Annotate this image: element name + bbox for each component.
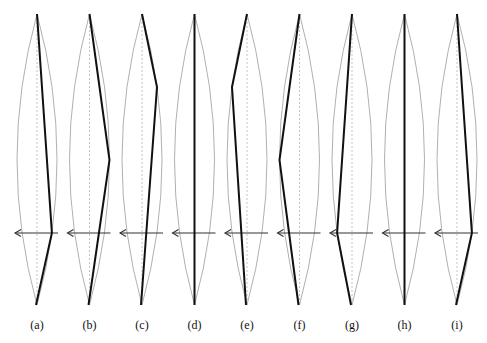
- lens-right-arc: [405, 14, 425, 305]
- panel-i: (i): [435, 14, 478, 332]
- lens-left-arc: [385, 14, 405, 305]
- bold-path-line: [141, 14, 157, 305]
- lens-left-arc: [437, 14, 457, 305]
- lens-left-arc: [70, 14, 90, 305]
- bold-path-line: [456, 14, 472, 305]
- panel-label: (d): [188, 318, 202, 332]
- panel-f: (f): [278, 14, 321, 332]
- lens-left-arc: [122, 14, 142, 305]
- panel-label: (b): [83, 318, 97, 332]
- lens-left-arc: [17, 14, 37, 305]
- panel-label: (f): [294, 318, 306, 332]
- lens-left-arc: [175, 14, 195, 305]
- bold-path-line: [232, 14, 247, 305]
- bold-path-line: [89, 14, 110, 305]
- lens-right-arc: [352, 14, 372, 305]
- panel-label: (c): [135, 318, 148, 332]
- panel-e: (e): [225, 14, 268, 332]
- panel-c: (c): [120, 14, 163, 332]
- lens-path-diagram: (a)(b)(c)(d)(e)(f)(g)(h)(i): [0, 0, 487, 343]
- panel-h: (h): [383, 14, 426, 332]
- panel-g: (g): [330, 14, 373, 332]
- panel-label: (i): [451, 318, 462, 332]
- panel-label: (g): [345, 318, 359, 332]
- lens-right-arc: [300, 14, 320, 305]
- lens-left-arc: [280, 14, 300, 305]
- panel-a: (a): [15, 14, 58, 332]
- panel-label: (e): [240, 318, 253, 332]
- lens-right-arc: [247, 14, 267, 305]
- panel-label: (a): [30, 318, 43, 332]
- bold-path-line: [337, 14, 352, 305]
- panel-d: (d): [173, 14, 216, 332]
- panel-label: (h): [398, 318, 412, 332]
- lens-right-arc: [195, 14, 215, 305]
- lens-right-arc: [90, 14, 110, 305]
- bold-path-line: [36, 14, 52, 305]
- panel-b: (b): [68, 14, 111, 332]
